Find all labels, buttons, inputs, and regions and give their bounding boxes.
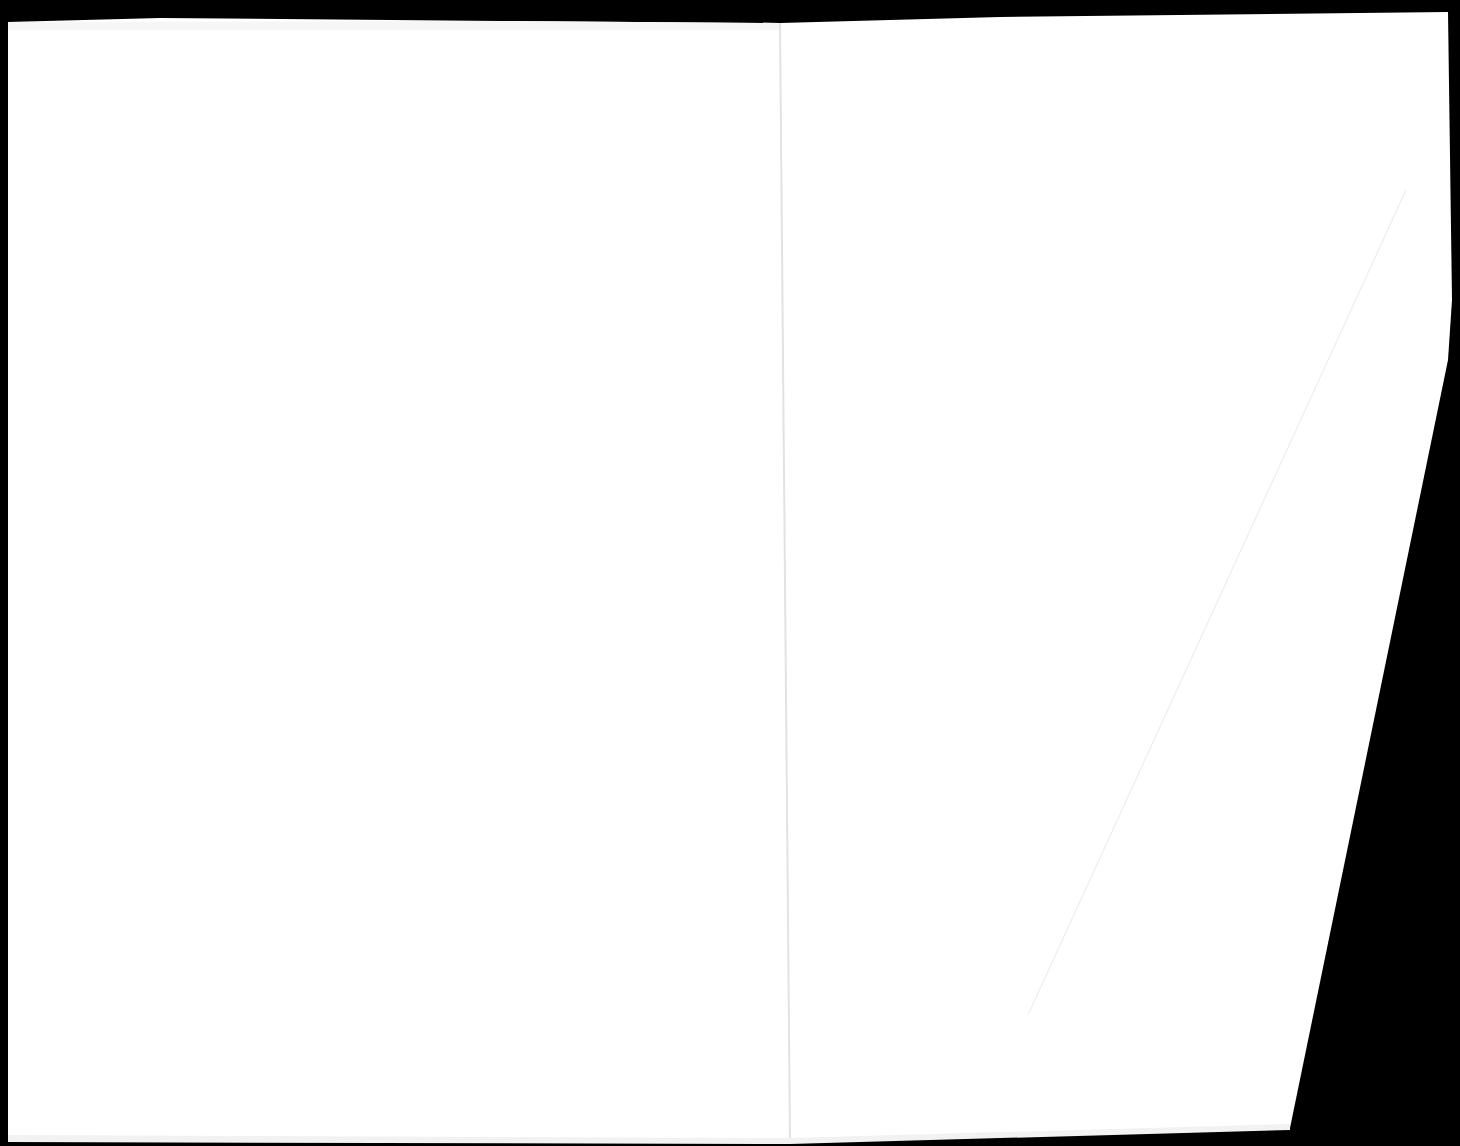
left-page-top-shadow (8, 21, 780, 30)
left-page (8, 18, 790, 1142)
scanned-spread (0, 0, 1460, 1146)
right-page (780, 12, 1452, 1142)
spread-canvas (0, 0, 1460, 1146)
